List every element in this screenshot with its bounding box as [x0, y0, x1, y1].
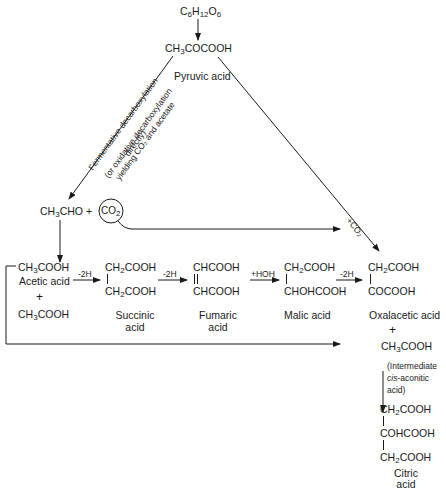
- citric-label-2: acid: [380, 478, 432, 490]
- oxalacetic-top: CH2COOH: [368, 261, 419, 277]
- single-bond: [370, 274, 371, 284]
- fumaric-label-2: acid: [190, 321, 246, 333]
- succinic-label-2: acid: [105, 321, 165, 333]
- single-bond: [383, 440, 384, 450]
- single-bond: [383, 416, 384, 426]
- step-minus-2h-1: -2H: [78, 268, 92, 280]
- pyruvic-formula: CH3COCOOH: [165, 42, 232, 58]
- step-minus-2h-2: -2H: [163, 268, 177, 280]
- oxalacetic-bottom: COCOOH: [368, 285, 415, 297]
- acetaldehyde-formula: CH3CHO +: [40, 205, 92, 221]
- fumaric-label-1: Fumaric: [190, 309, 246, 321]
- acetic-formula-3: CH3COOH: [381, 340, 432, 356]
- acetic-label: Acetic acid: [19, 275, 70, 287]
- malic-top: CH2COOH: [284, 261, 335, 277]
- plus-sign: +: [36, 291, 43, 303]
- malic-label: Malic acid: [284, 309, 331, 321]
- double-bond: [194, 274, 198, 284]
- single-bond: [286, 274, 287, 284]
- fumaric-top: CHCOOH: [193, 261, 240, 273]
- step-plus-hoh: +HOH: [251, 268, 275, 280]
- co2-circled: CO2: [101, 205, 120, 220]
- acetic-formula-2: CH3COOH: [18, 308, 69, 324]
- succinic-label-1: Succinic: [105, 309, 165, 321]
- intermediate-note: (Intermediate cis-aconitic acid): [387, 360, 437, 396]
- glucose-formula: C6H12O6: [180, 5, 221, 21]
- citric-line-2: COHCOOH: [380, 427, 435, 439]
- plus-sign-2: +: [389, 324, 396, 336]
- fumaric-bottom: CHCOOH: [193, 285, 240, 297]
- citric-line-3: CH2COOH: [380, 451, 431, 467]
- citric-line-1: CH2COOH: [380, 403, 431, 419]
- single-bond: [107, 274, 108, 284]
- succinic-bottom: CH2COOH: [105, 285, 156, 301]
- oxalacetic-label: Oxalacetic acid: [369, 309, 440, 321]
- succinic-top: CH2COOH: [105, 261, 156, 277]
- malic-bottom: CHOHCOOH: [284, 285, 346, 297]
- step-minus-2h-3: -2H: [340, 268, 354, 280]
